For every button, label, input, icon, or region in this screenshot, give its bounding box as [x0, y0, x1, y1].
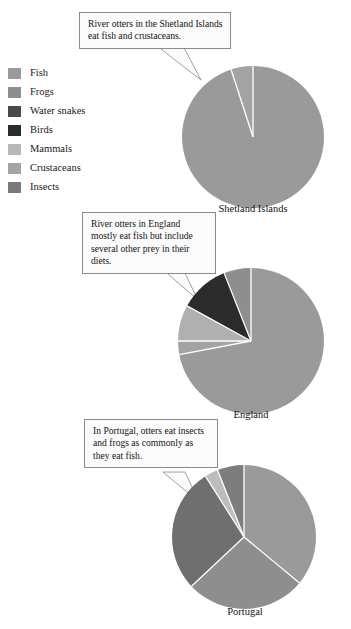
pie-caption-portugal: Portugal — [175, 606, 315, 617]
callout-england: River otters in England mostly eat fish … — [82, 212, 216, 274]
callout-shetland: River otters in the Shetland Islands eat… — [79, 12, 231, 49]
legend-item-water-snakes: Water snakes — [8, 102, 118, 121]
legend-swatch-mammals — [8, 144, 21, 155]
pie-caption-england: England — [181, 409, 321, 420]
legend-label-water-snakes: Water snakes — [30, 106, 85, 117]
legend-item-insects: Insects — [8, 178, 118, 197]
legend-swatch-insects — [8, 182, 21, 193]
legend-swatch-birds — [8, 125, 21, 136]
legend-label-frogs: Frogs — [30, 87, 54, 98]
pie-block-england — [178, 268, 324, 414]
callout-portugal-text: In Portugal, otters eat insects and frog… — [93, 425, 210, 462]
callout-shetland-text: River otters in the Shetland Islands eat… — [88, 18, 223, 43]
pie-separators — [182, 66, 324, 208]
legend-label-mammals: Mammals — [30, 144, 72, 155]
legend-swatch-fish — [8, 68, 21, 79]
legend-swatch-water-snakes — [8, 106, 21, 117]
legend-label-insects: Insects — [30, 182, 59, 193]
pie-caption-shetland: Shetland Islands — [183, 203, 323, 214]
legend-label-birds: Birds — [30, 125, 53, 136]
pie-chart-shetland — [182, 66, 324, 208]
legend-item-mammals: Mammals — [8, 140, 118, 159]
callout-portugal: In Portugal, otters eat insects and frog… — [84, 419, 218, 468]
pie-block-shetland — [182, 66, 324, 208]
legend-swatch-frogs — [8, 87, 21, 98]
pie-chart-portugal — [172, 465, 316, 609]
pie-separators — [178, 268, 324, 414]
pie-chart-england — [178, 268, 324, 414]
legend-label-fish: Fish — [30, 68, 48, 79]
legend-swatch-crustaceans — [8, 163, 21, 174]
legend: Fish Frogs Water snakes Birds Mammals Cr… — [8, 64, 118, 197]
pie-block-portugal — [172, 465, 316, 609]
legend-label-crustaceans: Crustaceans — [30, 163, 81, 174]
legend-item-crustaceans: Crustaceans — [8, 159, 118, 178]
legend-item-fish: Fish — [8, 64, 118, 83]
legend-item-birds: Birds — [8, 121, 118, 140]
legend-item-frogs: Frogs — [8, 83, 118, 102]
otter-diet-pie-figure: Fish Frogs Water snakes Birds Mammals Cr… — [0, 0, 351, 629]
callout-england-text: River otters in England mostly eat fish … — [91, 218, 208, 268]
pie-separators — [172, 465, 316, 609]
